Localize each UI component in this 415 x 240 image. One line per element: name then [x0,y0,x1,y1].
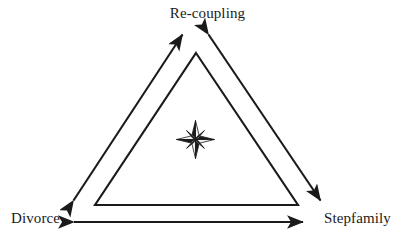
node-label-stepfamily: Stepfamily [324,210,391,227]
compass-rose-star-icon [177,121,215,159]
node-label-recoupling: Re-coupling [0,5,415,22]
triangle-diagram [0,0,415,240]
connector-divorce-recoupling [74,35,183,201]
node-label-divorce: Divorce [11,210,60,227]
diagram-canvas: Re-coupling Divorce Stepfamily [0,0,415,240]
connector-recoupling-stepfamily [209,35,321,201]
